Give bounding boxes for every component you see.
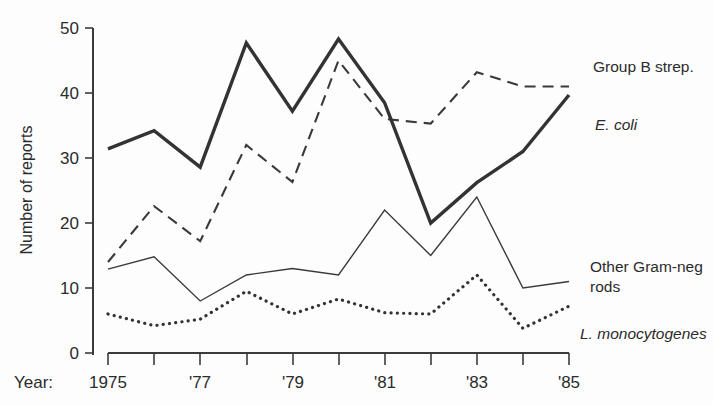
y-tick-label-40: 40 (60, 84, 79, 103)
y-tick-label-30: 30 (60, 149, 79, 168)
x-tick-label-1979: '79 (282, 373, 304, 392)
x-axis: Year: 1975 '77 '79 '81 '83 '85 (14, 353, 580, 392)
x-tick-label-1975: 1975 (89, 373, 127, 392)
y-tick-label-50: 50 (60, 19, 79, 38)
series-l-monocytogenes (108, 275, 569, 328)
label-e-coli: E. coli (595, 116, 638, 133)
y-axis: 50 40 30 20 10 0 Number of reports (18, 19, 93, 363)
series-e-coli (108, 39, 569, 223)
y-tick-label-10: 10 (60, 279, 79, 298)
label-group-b-strep: Group B strep. (593, 58, 694, 75)
y-tick-label-20: 20 (60, 214, 79, 233)
x-tick-label-1981: '81 (374, 373, 396, 392)
line-chart: 50 40 30 20 10 0 Number of reports Year:… (0, 0, 713, 405)
y-tick-label-0: 0 (70, 344, 79, 363)
series-group-b-strep (108, 61, 569, 263)
y-axis-title: Number of reports (18, 126, 35, 255)
series-group (108, 39, 569, 328)
label-other-gram-neg-rods-line2: rods (590, 278, 620, 295)
series-other-gram-neg-rods (108, 197, 569, 301)
x-tick-label-1977: '77 (189, 373, 211, 392)
label-other-gram-neg-rods-line1: Other Gram-neg (590, 258, 703, 275)
chart-container: 50 40 30 20 10 0 Number of reports Year:… (0, 0, 713, 405)
series-labels: Group B strep. E. coli Other Gram-neg ro… (580, 58, 707, 342)
x-tick-label-1983: '83 (466, 373, 488, 392)
x-tick-label-1985: '85 (558, 373, 580, 392)
label-l-monocytogenes: L. monocytogenes (580, 325, 707, 342)
x-axis-title: Year: (14, 373, 53, 392)
